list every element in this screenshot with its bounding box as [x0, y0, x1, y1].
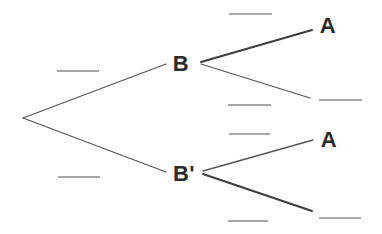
branch-bprime-to-a [203, 140, 313, 171]
node-label-bprime: B' [173, 163, 195, 185]
node-label-b: B [173, 53, 189, 75]
branch-b-to-a [201, 30, 312, 62]
branch-bprime-to-blank [203, 174, 312, 211]
node-label-a-lower: A [321, 129, 337, 151]
probability-tree-diagram: B B' A A [0, 0, 382, 234]
node-label-a-upper: A [320, 15, 336, 37]
branch-b-to-blank [201, 64, 310, 98]
branch-root-to-bprime [23, 118, 166, 172]
branch-root-to-b [23, 64, 166, 118]
